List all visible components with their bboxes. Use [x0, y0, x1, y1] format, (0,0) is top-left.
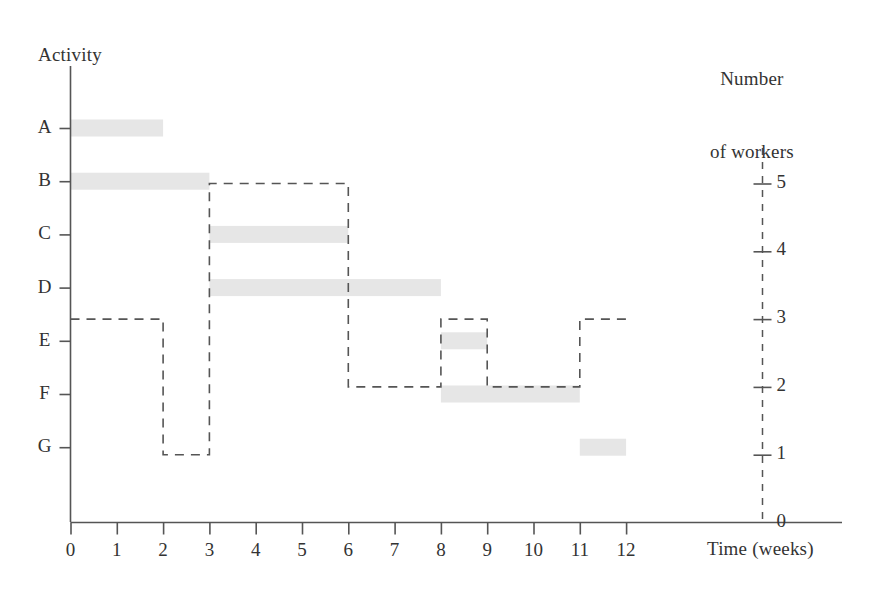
- time-tick-label-1: 1: [104, 539, 130, 561]
- time-tick-label-5: 5: [289, 539, 315, 561]
- workers-tick-label-0: 0: [777, 510, 797, 532]
- workers-tick-label-5: 5: [777, 171, 797, 193]
- activity-tick-label-a: A: [34, 116, 56, 138]
- activity-bar-e: [441, 332, 487, 349]
- activity-tick-label-f: F: [34, 382, 56, 404]
- gantt-resource-chart: Activity Number of workers Time (weeks) …: [0, 0, 879, 591]
- workers-tick-label-3: 3: [777, 306, 797, 328]
- workers-tick-label-1: 1: [777, 442, 797, 464]
- time-tick-label-8: 8: [428, 539, 454, 561]
- time-tick-label-4: 4: [243, 539, 269, 561]
- activity-bar-a: [71, 120, 164, 137]
- time-tick-label-2: 2: [150, 539, 176, 561]
- workers-tick-label-4: 4: [777, 238, 797, 260]
- workers-tick-label-2: 2: [777, 374, 797, 396]
- activity-axis-title: Activity: [38, 44, 102, 66]
- time-axis-ticks: [71, 523, 627, 535]
- activity-bar-b: [71, 173, 210, 190]
- activity-bar-c: [209, 226, 348, 243]
- activity-bar-d: [209, 279, 441, 296]
- workers-axis-title-line1: Number: [710, 67, 794, 91]
- time-tick-label-9: 9: [474, 539, 500, 561]
- activity-bar-g: [580, 439, 626, 456]
- activity-tick-label-c: C: [34, 222, 56, 244]
- activity-tick-label-g: G: [34, 435, 56, 457]
- activity-tick-label-d: D: [34, 276, 56, 298]
- workers-histogram-step-line: [71, 184, 627, 455]
- activity-tick-label-e: E: [34, 329, 56, 351]
- time-tick-label-0: 0: [58, 539, 84, 561]
- time-tick-label-3: 3: [196, 539, 222, 561]
- activity-bar-f: [441, 386, 580, 403]
- activity-axis-ticks: [60, 129, 71, 448]
- time-tick-label-10: 10: [521, 539, 547, 561]
- time-tick-label-6: 6: [335, 539, 361, 561]
- workers-axis-title-line2: of workers: [710, 140, 794, 164]
- time-tick-label-11: 11: [567, 539, 593, 561]
- time-tick-label-12: 12: [613, 539, 639, 561]
- time-axis-title: Time (weeks): [707, 538, 814, 560]
- activity-tick-label-b: B: [34, 169, 56, 191]
- time-tick-label-7: 7: [382, 539, 408, 561]
